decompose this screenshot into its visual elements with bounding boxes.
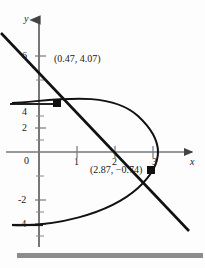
x-axis-label: x (190, 157, 194, 167)
annotation-upper-intersection: (0.47, 4.07) (54, 54, 101, 64)
y-tick-label-4: 4 (22, 107, 27, 117)
y-tick-label-2: 2 (22, 123, 27, 133)
graph-figure: y x 6 4 2 0 -2 -4 1 2 3 (0.47, 4.07) (2.… (0, 0, 205, 268)
parabola-curve (12, 99, 158, 226)
plot-canvas (0, 0, 205, 268)
bottom-rule-bar (17, 253, 203, 258)
x-tick-label-3: 3 (152, 157, 157, 167)
y-tick-label-neg4: -4 (18, 219, 26, 229)
y-axis-label: y (24, 14, 28, 24)
marker-lower-intersection (147, 166, 155, 174)
y-tick-label-0: 0 (24, 156, 29, 166)
marker-upper-intersection (53, 99, 61, 107)
y-tick-label-6: 6 (22, 51, 27, 61)
y-tick-label-neg2: -2 (18, 195, 26, 205)
annotation-lower-intersection: (2.87, −0.74) (90, 165, 142, 175)
x-tick-label-1: 1 (74, 157, 79, 167)
